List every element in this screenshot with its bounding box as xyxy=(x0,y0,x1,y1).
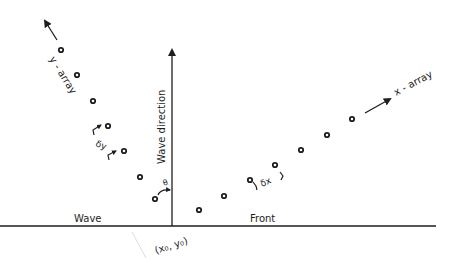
front-label: Front xyxy=(250,213,275,224)
sensor-point xyxy=(350,117,354,121)
sensor-point xyxy=(106,124,110,128)
sensor-point xyxy=(325,133,329,137)
x-array-points xyxy=(197,117,354,212)
wave-direction-label: Wave direction xyxy=(156,90,167,164)
y-array-arrow xyxy=(45,21,57,40)
sensor-point xyxy=(75,73,79,77)
sensor-point xyxy=(122,149,126,153)
sensor-point xyxy=(197,208,201,212)
theta-arc-arrow xyxy=(158,190,170,195)
delta-x-label: δx xyxy=(259,175,274,189)
scan-artifact xyxy=(132,232,146,258)
x-array-arrow xyxy=(365,99,390,113)
y-array-points xyxy=(59,48,157,201)
delta-y-lower-arrow xyxy=(108,151,116,160)
sensor-point xyxy=(138,175,142,179)
delta-x-right-mark xyxy=(280,172,283,180)
wave-array-diagram: y - array x - array Wave direction Wave … xyxy=(0,0,452,273)
delta-x-left-mark xyxy=(253,182,257,190)
origin-label: (x₀, y₀) xyxy=(153,235,189,256)
sensor-point xyxy=(153,197,157,201)
sensor-point xyxy=(222,194,226,198)
sensor-point xyxy=(299,148,303,152)
theta-label: θ xyxy=(162,178,170,188)
sensor-point xyxy=(59,48,63,52)
sensor-point xyxy=(248,178,252,182)
delta-y-label: δy xyxy=(94,138,108,151)
x-array-label: x - array xyxy=(392,68,434,98)
sensor-point xyxy=(273,163,277,167)
sensor-point xyxy=(91,99,95,103)
delta-y-upper-arrow xyxy=(93,125,101,135)
wave-label: Wave xyxy=(74,213,101,224)
